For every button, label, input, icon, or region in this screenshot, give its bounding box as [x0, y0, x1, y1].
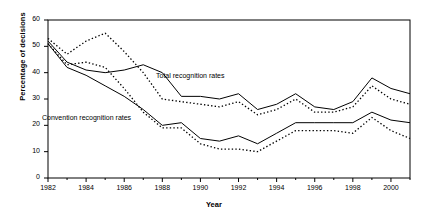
- plot-border: [48, 20, 410, 178]
- y-tick-label: 0: [18, 173, 40, 180]
- x-tick-marks: [48, 178, 410, 182]
- x-tick-label: 1984: [66, 184, 106, 191]
- series-annotation: Convention recognition rates: [42, 114, 131, 121]
- y-tick-label: 20: [18, 120, 40, 127]
- series-line: [48, 44, 410, 144]
- y-tick-label: 60: [18, 15, 40, 22]
- x-tick-label: 1982: [28, 184, 68, 191]
- y-tick-label: 10: [18, 147, 40, 154]
- y-tick-label: 40: [18, 68, 40, 75]
- x-tick-label: 1994: [257, 184, 297, 191]
- series-line: [48, 41, 410, 109]
- x-tick-label: 1988: [142, 184, 182, 191]
- series-annotation: Total recognition rates: [156, 72, 224, 79]
- x-tick-label: 1992: [219, 184, 259, 191]
- y-tick-label: 50: [18, 41, 40, 48]
- x-tick-label: 1998: [333, 184, 373, 191]
- series-line: [48, 33, 410, 115]
- line-chart: Percentage of decisions Year 01020304050…: [0, 0, 428, 223]
- y-tick-marks: [44, 20, 48, 178]
- x-tick-label: 1996: [295, 184, 335, 191]
- y-tick-label: 30: [18, 94, 40, 101]
- x-tick-label: 1986: [104, 184, 144, 191]
- series-lines: [48, 33, 410, 152]
- x-tick-label: 2000: [371, 184, 411, 191]
- x-tick-label: 1990: [180, 184, 220, 191]
